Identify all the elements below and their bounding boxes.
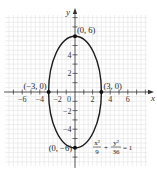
vertex-label: (3, 0)	[103, 81, 122, 91]
x-axis-label: x	[150, 93, 155, 103]
vertex-point	[73, 146, 77, 150]
y-tick-label: 4	[68, 51, 72, 60]
eq-denominator-1: 9	[95, 148, 99, 156]
x-tick-label: −4	[36, 95, 45, 104]
eq-plus: +	[104, 144, 108, 152]
vertex-point	[47, 90, 51, 94]
vertex-label: (0, −6)	[49, 143, 72, 153]
y-tick-label: −4	[63, 125, 72, 134]
vertex-label: (0, 6)	[77, 25, 96, 35]
origin-label: 0	[67, 95, 71, 104]
y-axis-label: y	[65, 7, 70, 17]
eq-numerator-1: x²	[94, 139, 100, 147]
y-tick-label: 2	[68, 69, 72, 78]
x-tick-label: 2	[91, 95, 95, 104]
y-tick-label: −2	[63, 107, 72, 116]
y-axis-arrow	[73, 8, 77, 14]
eq-numerator-2: y²	[113, 139, 119, 147]
x-tick-label: 6	[126, 95, 130, 104]
ellipse-graph: x y −6−4−2246−4−224 0 (0, 6)(3, 0)(−3, 0…	[0, 0, 157, 169]
eq-rhs: = 1	[123, 144, 133, 152]
x-tick-label: 4	[108, 95, 112, 104]
x-tick-label: −6	[18, 95, 27, 104]
eq-denominator-2: 36	[113, 148, 121, 156]
vertex-label: (−3, 0)	[23, 81, 46, 91]
x-tick-label: −2	[53, 95, 62, 104]
